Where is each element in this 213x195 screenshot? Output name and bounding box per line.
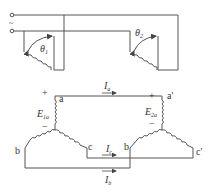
machine2-coil (132, 52, 157, 70)
current-a-label: Ia (103, 80, 110, 92)
right-terminal-b: b (124, 141, 129, 152)
current-c-label: Ic (105, 143, 112, 155)
wire-phase-c (87, 148, 193, 158)
left-terminal-b: b (15, 145, 20, 156)
wire-m2-return (158, 36, 166, 70)
right-coil-c (162, 130, 193, 148)
left-plus: + (42, 87, 48, 98)
terminal-1 (10, 13, 14, 17)
left-minus: − (42, 121, 48, 132)
wire-line-2 (14, 31, 130, 52)
left-terminal-c: c (88, 141, 93, 152)
theta1-label: θ1 (40, 43, 48, 55)
emf-e1a-label: E1a (36, 108, 49, 120)
theta2-label: θ2 (135, 27, 143, 39)
theta2-arc-arrow (134, 36, 156, 51)
left-coil-b (25, 129, 55, 148)
right-coil-a (162, 96, 164, 130)
ac-source-symbol: ~ (9, 19, 14, 28)
wire-line-1-m1 (54, 15, 64, 70)
emf-e2a-label: E2a (144, 106, 157, 118)
right-coil-b (130, 129, 162, 148)
right-terminal-c: c' (196, 146, 202, 157)
terminal-2 (10, 29, 14, 33)
right-minus: − (149, 118, 155, 129)
right-plus: + (149, 90, 155, 101)
left-terminal-a: a (59, 93, 64, 104)
wire-line-1 (14, 15, 178, 70)
left-coil-c (55, 130, 87, 148)
current-b-label: Ib (104, 174, 111, 186)
right-terminal-a: a' (167, 90, 173, 101)
left-coil-a (55, 96, 57, 130)
source-terminals: ~ (9, 13, 14, 33)
circuit-diagram: ~ θ1 θ2 Ia a + − E1a b c a' + − E2a b c'… (0, 0, 213, 195)
